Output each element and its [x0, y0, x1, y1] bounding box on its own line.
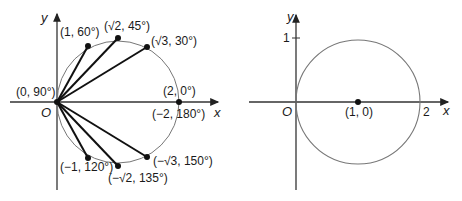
- point-label: (−1, 120°): [60, 160, 113, 174]
- origin-label: O: [41, 105, 51, 120]
- point-label: (√3, 30°): [151, 34, 197, 48]
- point-label: (2, 0°): [163, 84, 196, 98]
- point-label: (1, 60°): [60, 25, 99, 39]
- left-diagram: y x O (1, 60°) (√2, 45°) (√3, 30°) (0, 9…: [10, 10, 221, 190]
- point-label: (−2, 180°): [152, 107, 205, 121]
- x-axis-label: x: [213, 105, 221, 120]
- origin-label: O: [282, 104, 292, 119]
- y-axis-label: y: [40, 10, 49, 25]
- point-label: (−√2, 135°): [108, 171, 168, 185]
- x-axis-label: x: [442, 103, 450, 118]
- point-label: (0, 90°): [16, 85, 55, 99]
- x-tick-label: 2: [423, 105, 430, 119]
- point-label: (−√3, 150°): [153, 154, 213, 168]
- right-diagram: y x O 1 2 (1, 0): [249, 9, 450, 190]
- y-axis-label: y: [286, 9, 295, 24]
- center-label: (1, 0): [345, 105, 373, 119]
- y-tick-label: 1: [283, 31, 290, 45]
- point-label: (√2, 45°): [104, 19, 150, 33]
- polar-diagrams: y x O (1, 60°) (√2, 45°) (√3, 30°) (0, 9…: [0, 0, 462, 201]
